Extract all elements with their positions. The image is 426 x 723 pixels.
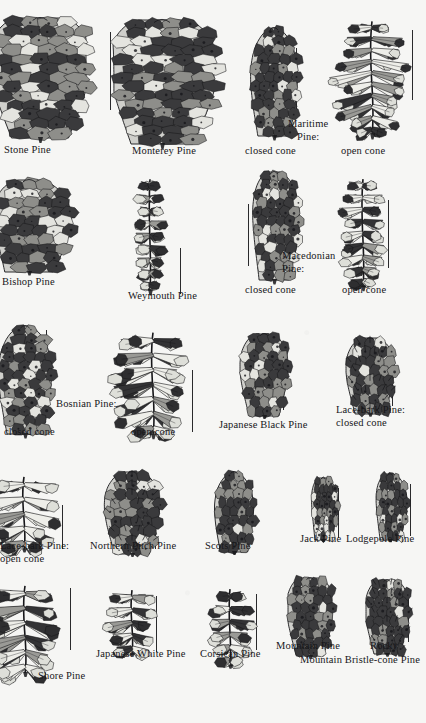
cone-illustration-lace-bark-pine-closed-cone xyxy=(346,338,394,414)
scale-bar-weymouth-pine xyxy=(180,248,181,294)
cone-illustration-maritime-pine-open-cone xyxy=(330,14,414,138)
label-macedonian-pine-open-cone: open cone xyxy=(342,284,386,297)
scale-bar-lodgepole-pine xyxy=(410,484,411,536)
label-line-1: Lace-bark Pine: xyxy=(0,540,69,553)
label-line-1: Bosnian Pine: xyxy=(56,398,117,411)
cone-illustration-bosnian-pine-open-cone xyxy=(110,326,196,438)
label-mountain-pine: Mountain Pine xyxy=(276,640,340,653)
label-rocky-mountain-bristle-cone-pine: Rocky xyxy=(370,640,398,653)
label-line-2: Pine: xyxy=(282,263,335,276)
cone-illustration-bishop-pine xyxy=(0,180,68,272)
label-maritime-pine-open-cone: open cone xyxy=(341,145,385,158)
group-label-bosnian-pine: Bosnian Pine: xyxy=(56,398,117,411)
label-line-2: Pine: xyxy=(288,131,328,144)
label-rocky-mountain-bristle-cone-pine-line2: Mountain Bristle-cone Pine xyxy=(300,654,420,667)
label-japanese-white-pine: Japanese White Pine xyxy=(96,648,186,661)
label-line-1: Macedonian xyxy=(282,250,335,263)
cone-illustration-shore-pine xyxy=(0,580,66,676)
cone-illustration-stone-pine xyxy=(0,18,86,138)
cone-illustration-japanese-black-pine xyxy=(240,334,288,416)
label-maritime-pine-closed-cone: closed cone xyxy=(245,145,296,158)
cone-illustration-macedonian-pine-open-cone xyxy=(332,172,394,290)
pine-cone-plate: Stone PineMonterey Pineclosed coneopen c… xyxy=(0,0,426,723)
label-line-1: Mountain Bristle-cone Pine xyxy=(300,654,420,667)
label-northern-pitch-pine: Northern Pitch Pine xyxy=(90,540,176,553)
label-lace-bark-pine-open-cone: Lace-bark Pine:open cone xyxy=(0,540,69,565)
cone-illustration-weymouth-pine xyxy=(128,172,172,294)
label-weymouth-pine: Weymouth Pine xyxy=(128,290,197,303)
label-monterey-pine: Monterey Pine xyxy=(132,145,196,158)
label-lodgepole-pine: Lodgepole Pine xyxy=(346,533,414,546)
cone-illustration-lodgepole-pine xyxy=(374,474,406,540)
label-line-1: Lace-bark Pine: xyxy=(336,404,405,417)
label-corsican-pine: Corsican Pine xyxy=(200,648,261,661)
label-stone-pine: Stone Pine xyxy=(4,144,51,157)
label-bishop-pine: Bishop Pine xyxy=(2,276,55,289)
scale-bar-jack-pine xyxy=(338,488,339,538)
cone-illustration-monterey-pine xyxy=(112,20,212,144)
label-bosnian-pine-open-cone: open cone xyxy=(131,426,175,439)
group-label-maritime-pine: MaritimePine: xyxy=(288,118,328,143)
cone-illustration-bosnian-pine-closed-cone xyxy=(0,326,54,434)
label-bosnian-pine-closed-cone: closed cone xyxy=(4,426,55,439)
label-line-2: closed cone xyxy=(336,417,405,430)
label-line-2: open cone xyxy=(0,553,69,566)
cone-illustration-jack-pine xyxy=(310,478,336,540)
label-lace-bark-pine-closed-cone: Lace-bark Pine:closed cone xyxy=(336,404,405,429)
scale-bar-shore-pine xyxy=(70,588,71,650)
label-shore-pine: Shore Pine xyxy=(38,670,85,683)
label-japanese-black-pine: Japanese Black Pine xyxy=(219,419,308,432)
scale-bar-monterey-pine xyxy=(110,32,111,110)
scale-bar-macedonian-pine-closed-cone xyxy=(248,204,249,266)
label-jack-pine: Jack Pine xyxy=(300,533,341,546)
group-label-macedonian-pine: MacedonianPine: xyxy=(282,250,335,275)
scale-bar-corsican-pine xyxy=(256,594,257,650)
label-scots-pine: Scots Pine xyxy=(205,540,251,553)
label-macedonian-pine-closed-cone: closed cone xyxy=(245,284,296,297)
label-line-1: Maritime xyxy=(288,118,328,131)
cone-illustration-japanese-white-pine xyxy=(104,586,160,656)
